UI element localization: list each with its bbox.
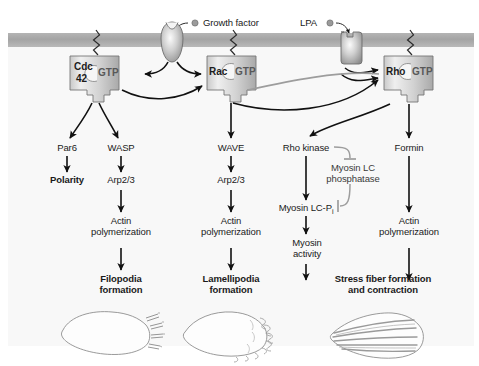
lpa-dot <box>327 20 333 26</box>
figure-canvas: Growth factor LPA Cdc 42 GTP Rac GTP Rho… <box>0 0 479 366</box>
lamellipodia-line2: formation <box>210 284 253 295</box>
actin-polymerization-label-2: Actin polymerization <box>189 216 273 237</box>
myosin-activity-label: Myosin activity <box>276 238 338 259</box>
lamellipodia-line1: Lamellipodia <box>203 273 260 284</box>
lamellipodia-formation-label: Lamellipodia formation <box>186 274 276 295</box>
stress-fiber-line2: and contraction <box>348 284 418 295</box>
actin-poly-1-line1: Actin <box>111 215 132 226</box>
filopodia-formation-label: Filopodia formation <box>81 274 161 295</box>
formin-label: Formin <box>386 143 432 154</box>
myosin-lc-phosphatase-label: Myosin LC phosphatase <box>318 163 388 184</box>
cdc42-label-line1: Cdc <box>74 61 93 72</box>
plasma-membrane <box>8 33 474 47</box>
rac-gtp-label: GTP <box>235 66 256 77</box>
stress-fiber-formation-label: Stress fiber formation and contraction <box>294 274 472 295</box>
actin-polymerization-label-3: Actin polymerization <box>367 216 451 237</box>
phosphatase-line1: Myosin LC <box>331 162 375 173</box>
growth-factor-label: Growth factor <box>203 18 259 29</box>
cdc42-label-line2: 42 <box>76 73 87 84</box>
wave-label: WAVE <box>208 143 254 154</box>
rho-kinase-label: Rho kinase <box>274 143 338 154</box>
cdc42-gtp-label: GTP <box>98 67 119 78</box>
lpa-receptor <box>341 32 362 64</box>
actin-poly-3-line2: polymerization <box>379 226 439 237</box>
filopodia-line2: formation <box>100 284 143 295</box>
par6-label: Par6 <box>47 143 87 154</box>
rho-label: Rho <box>386 66 405 77</box>
lpa-leader <box>336 23 349 33</box>
myosin-lc-pi-subscript: i <box>332 208 333 215</box>
actin-poly-2-line1: Actin <box>221 215 242 226</box>
myosin-lc-pi-text: Myosin LC-P <box>279 202 332 213</box>
actin-poly-3-line1: Actin <box>399 215 420 226</box>
actin-poly-1-line2: polymerization <box>91 226 151 237</box>
lpa-label: LPA <box>300 18 317 29</box>
polarity-label: Polarity <box>43 175 91 186</box>
myosin-activity-line1: Myosin <box>292 237 322 248</box>
arp23-label-cdc42: Arp2/3 <box>100 175 142 186</box>
phosphatase-line2: phosphatase <box>326 173 379 184</box>
stress-fiber-line1: Stress fiber formation <box>335 273 432 284</box>
actin-polymerization-label-1: Actin polymerization <box>79 216 163 237</box>
growth-factor-receptor <box>161 22 183 62</box>
rho-gtp-label: GTP <box>412 66 433 77</box>
wasp-label: WASP <box>100 143 142 154</box>
actin-poly-2-line2: polymerization <box>201 226 261 237</box>
myosin-activity-line2: activity <box>293 248 321 259</box>
arp23-label-rac: Arp2/3 <box>210 175 252 186</box>
rac-label: Rac <box>209 66 227 77</box>
myosin-lc-pi-label: Myosin LC-Pi <box>270 203 342 217</box>
growth-factor-dot <box>192 20 198 26</box>
filopodia-line1: Filopodia <box>100 273 141 284</box>
